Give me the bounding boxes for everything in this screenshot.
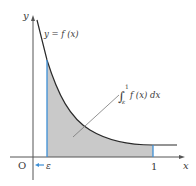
y-axis-arrow-icon xyxy=(31,15,35,21)
epsilon-tick-label: ε xyxy=(46,161,51,171)
leader-line xyxy=(73,95,119,137)
y-axis-label: y xyxy=(22,10,29,21)
x-axis-arrow-icon xyxy=(179,155,185,159)
integral-diagram: y x O y = f (x) ∫ 1 ε f (x) dx ε 1 xyxy=(0,0,196,186)
curve-label: y = f (x) xyxy=(43,29,79,39)
integral-integrand: f (x) dx xyxy=(129,90,160,100)
integral-upper-limit: 1 xyxy=(125,83,129,90)
x-axis-label: x xyxy=(183,160,189,171)
one-tick-label: 1 xyxy=(151,161,157,172)
integral-lower-limit: ε xyxy=(122,98,125,105)
origin-label: O xyxy=(18,160,26,171)
shaded-area xyxy=(47,60,153,157)
epsilon-arrow-icon xyxy=(35,163,39,167)
